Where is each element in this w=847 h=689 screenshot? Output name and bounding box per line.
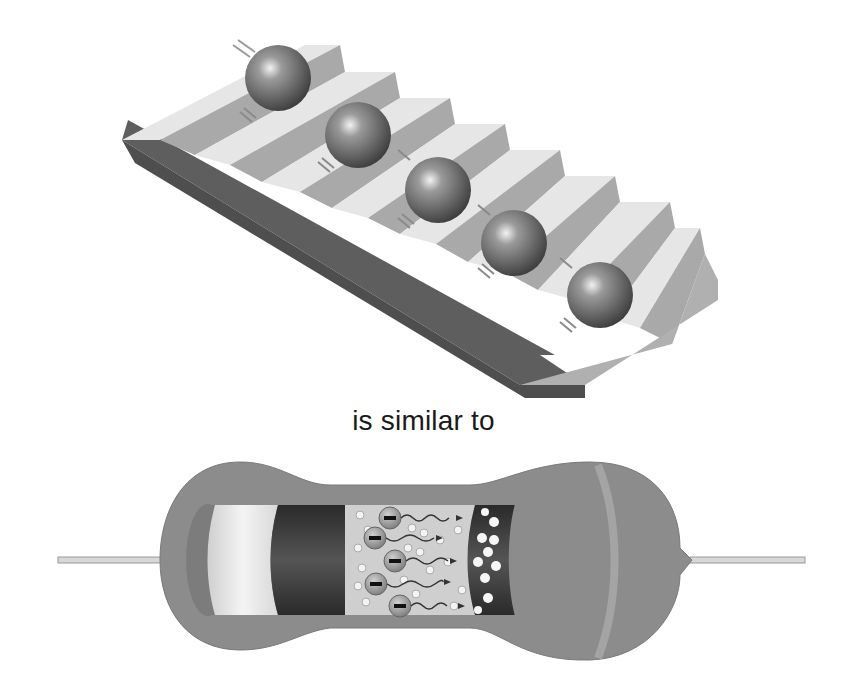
ball-3: [405, 157, 471, 223]
figure: is similar to: [0, 0, 847, 689]
ball-2: [325, 102, 391, 168]
right-lead: [690, 557, 805, 563]
illustration: [0, 0, 847, 689]
staircase: [122, 40, 718, 398]
ball-4: [481, 210, 547, 276]
caption: is similar to: [0, 405, 847, 437]
ball-1: [245, 45, 311, 111]
ball-5: [567, 262, 633, 328]
resistor: [58, 462, 805, 660]
